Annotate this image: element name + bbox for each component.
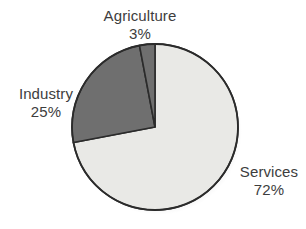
slice-label-agriculture: Agriculture 3% — [82, 7, 198, 42]
slice-label-services: Services 72% — [234, 163, 304, 198]
slice-label-agriculture-name: Agriculture — [82, 7, 198, 25]
slice-label-industry-name: Industry — [8, 85, 84, 103]
slice-label-services-value: 72% — [234, 181, 304, 199]
slice-label-industry-value: 25% — [8, 103, 84, 121]
slice-label-agriculture-value: 3% — [82, 25, 198, 43]
slice-label-services-name: Services — [234, 163, 304, 181]
slice-label-industry: Industry 25% — [8, 85, 84, 120]
pie-chart: Agriculture 3% Industry 25% Services 72% — [0, 0, 306, 229]
